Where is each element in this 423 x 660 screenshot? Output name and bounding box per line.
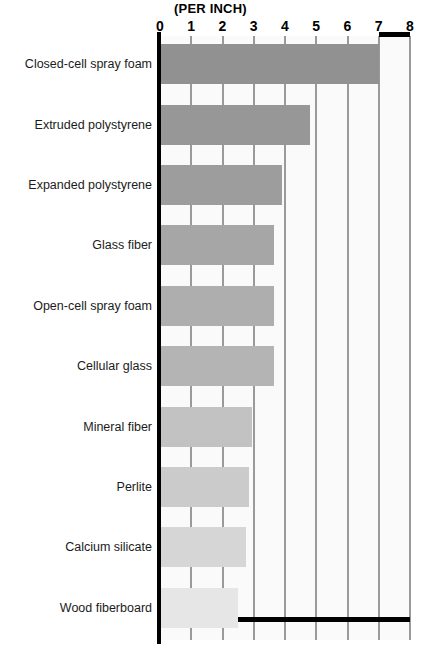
category-label: Cellular glass	[0, 359, 152, 373]
bar-row	[160, 44, 410, 84]
x-tick-label: 3	[242, 18, 266, 34]
bar	[160, 286, 274, 326]
bar-row	[160, 527, 410, 567]
category-label: Mineral fiber	[0, 420, 152, 434]
bar	[160, 527, 246, 567]
category-label: Closed-cell spray foam	[0, 57, 152, 71]
plot-area	[160, 36, 410, 640]
bar-row	[160, 286, 410, 326]
x-tick-label: 4	[273, 18, 297, 34]
category-label: Calcium silicate	[0, 540, 152, 554]
plot-bottom-border	[238, 617, 410, 622]
category-label: Perlite	[0, 480, 152, 494]
bar-row	[160, 346, 410, 386]
bar	[160, 225, 274, 265]
bar	[160, 407, 252, 447]
y-axis-category-labels: Closed-cell spray foamExtruded polystyre…	[0, 36, 157, 640]
chart-title: (PER INCH)	[160, 1, 410, 16]
category-label: Expanded polystyrene	[0, 178, 152, 192]
bar	[160, 346, 274, 386]
bar	[160, 588, 238, 628]
category-label: Wood fiberboard	[0, 601, 152, 615]
bar	[160, 105, 310, 145]
bar	[160, 467, 249, 507]
y-axis-line	[157, 32, 161, 644]
x-tick-label: 6	[336, 18, 360, 34]
x-axis-tick-labels: 012345678	[0, 18, 423, 36]
category-label: Extruded polystyrene	[0, 118, 152, 132]
x-tick-label: 5	[304, 18, 328, 34]
chart-title-text: (PER INCH)	[160, 1, 247, 16]
bar-chart: (PER INCH) 012345678 Closed-cell spray f…	[0, 0, 423, 660]
bar-row	[160, 467, 410, 507]
x-tick-label: 1	[179, 18, 203, 34]
bar-row	[160, 165, 410, 205]
bar-row	[160, 105, 410, 145]
plot-top-border	[379, 32, 410, 37]
category-label: Glass fiber	[0, 238, 152, 252]
bar-row	[160, 225, 410, 265]
category-label: Open-cell spray foam	[0, 299, 152, 313]
bar	[160, 44, 379, 84]
x-tick-label: 2	[211, 18, 235, 34]
bar-row	[160, 407, 410, 447]
bar	[160, 165, 282, 205]
